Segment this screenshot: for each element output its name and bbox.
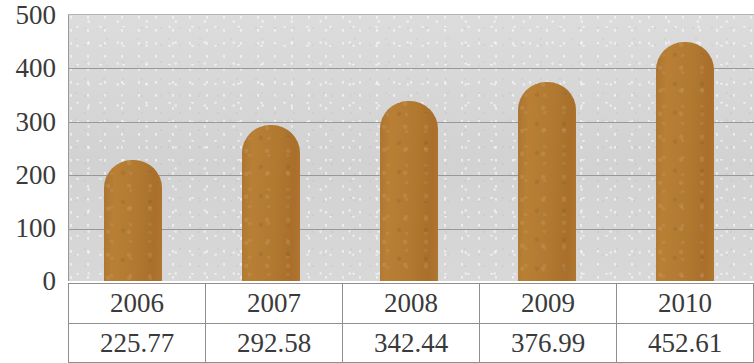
plot-area xyxy=(68,14,754,281)
table-cell-value-2009: 376.99 xyxy=(480,324,617,363)
table-cell-value-2007: 292.58 xyxy=(206,324,343,363)
table-cell-year-2006: 2006 xyxy=(69,284,206,324)
y-tick-label-200: 200 xyxy=(16,162,57,189)
bar-2006 xyxy=(104,160,162,281)
y-axis: 500 400 300 200 100 0 xyxy=(0,0,62,290)
bar-texture xyxy=(104,160,162,281)
y-tick-label-0: 0 xyxy=(43,268,57,295)
table-row-values: 225.77 292.58 342.44 376.99 452.61 xyxy=(69,324,754,363)
bar-texture xyxy=(518,82,576,281)
table-cell-value-2006: 225.77 xyxy=(69,324,206,363)
table-row-years: 2006 2007 2008 2009 2010 xyxy=(69,284,754,324)
y-tick-label-400: 400 xyxy=(16,55,57,82)
bar-2009 xyxy=(518,82,576,281)
gridline-400 xyxy=(69,68,754,69)
y-tick-label-100: 100 xyxy=(16,215,57,242)
table-cell-year-2007: 2007 xyxy=(206,284,343,324)
table-cell-value-2010: 452.61 xyxy=(617,324,754,363)
table-cell-year-2010: 2010 xyxy=(617,284,754,324)
table-cell-year-2009: 2009 xyxy=(480,284,617,324)
bar-2008 xyxy=(380,101,438,281)
bar-2010 xyxy=(656,42,714,281)
bar-texture xyxy=(242,125,300,281)
y-tick-label-500: 500 xyxy=(16,2,57,29)
bar-texture xyxy=(656,42,714,281)
data-table: 2006 2007 2008 2009 2010 225.77 292.58 3… xyxy=(68,283,754,363)
table-cell-year-2008: 2008 xyxy=(343,284,480,324)
y-tick-label-300: 300 xyxy=(16,109,57,136)
bar-2007 xyxy=(242,125,300,281)
bar-texture xyxy=(380,101,438,281)
table-cell-value-2008: 342.44 xyxy=(343,324,480,363)
